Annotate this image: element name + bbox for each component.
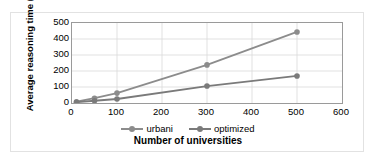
legend-marker-icon <box>121 124 143 133</box>
y-axis-title: Average reasoning time (s) <box>25 1 36 111</box>
y-tick-label: 200 <box>43 65 69 75</box>
legend-label: optimized <box>214 123 255 134</box>
legend-label: urbani <box>146 123 172 134</box>
x-axis-title: Number of universities <box>11 135 365 146</box>
x-tick-label: 300 <box>191 107 221 117</box>
chart-legend: urbanioptimized <box>11 123 365 134</box>
x-tick-label: 500 <box>281 107 311 117</box>
y-tick-label: 400 <box>43 33 69 43</box>
y-tick-label: 0 <box>43 97 69 107</box>
plot-area <box>71 22 343 104</box>
series-line-urbani <box>77 32 298 102</box>
x-tick-label: 100 <box>101 107 131 117</box>
data-point-optimized <box>204 83 210 89</box>
x-tick-label: 0 <box>56 107 86 117</box>
data-point-optimized <box>114 96 120 102</box>
x-tick-label: 600 <box>326 107 356 117</box>
data-point-urbani <box>204 62 210 68</box>
series-line-optimized <box>77 76 298 102</box>
data-point-urbani <box>114 90 120 96</box>
legend-item-urbani[interactable]: urbani <box>121 123 172 134</box>
y-tick-label: 500 <box>43 17 69 27</box>
chart-figure: Average reasoning time (s) 0100200300400… <box>10 12 364 152</box>
data-point-optimized <box>294 73 300 79</box>
y-tick-label: 300 <box>43 49 69 59</box>
x-axis-tick-labels: 0100200300400500600 <box>11 107 365 121</box>
legend-item-optimized[interactable]: optimized <box>189 123 255 134</box>
series-canvas <box>72 23 342 103</box>
x-tick-label: 400 <box>236 107 266 117</box>
data-point-urbani <box>294 29 300 35</box>
legend-marker-icon <box>189 124 211 133</box>
x-tick-label: 200 <box>146 107 176 117</box>
y-tick-label: 100 <box>43 81 69 91</box>
